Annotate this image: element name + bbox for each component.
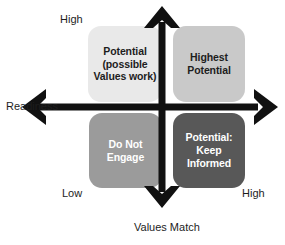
quadrant-bottom-left-label: Do Not Engage xyxy=(104,138,147,164)
quadrant-top-right-label: Highest Potential xyxy=(184,51,233,77)
horizontal-axis-low-label: Low xyxy=(62,187,82,199)
arrowhead-down-icon xyxy=(144,186,180,208)
arrowhead-up-icon xyxy=(144,6,180,28)
quadrant-top-left: Potential (possible Values work) xyxy=(88,26,162,102)
horizontal-axis-title: Values Match xyxy=(134,221,200,233)
quadrant-bottom-right-label: Potential: Keep Informed xyxy=(183,131,236,169)
quadrant-bottom-left: Do Not Engage xyxy=(89,113,162,188)
arrowhead-right-icon xyxy=(254,89,278,125)
horizontal-axis-high-label: High xyxy=(242,187,265,199)
quadrant-top-right: Highest Potential xyxy=(173,26,245,102)
quadrant-top-left-label: Potential (possible Values work) xyxy=(91,45,160,83)
quadrant-matrix-diagram: Potential (possible Values work) Highest… xyxy=(0,0,285,245)
horizontal-axis-shaft xyxy=(30,104,258,111)
quadrant-bottom-right: Potential: Keep Informed xyxy=(173,113,245,188)
vertical-axis-title: Readiness xyxy=(6,100,58,112)
vertical-axis-high-label: High xyxy=(60,13,83,25)
